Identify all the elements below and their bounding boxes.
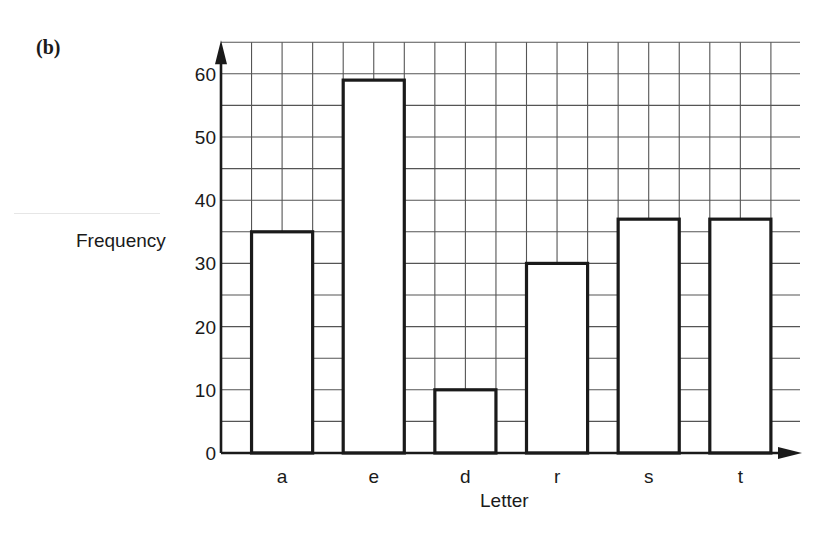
y-tick-label: 50 xyxy=(195,127,216,148)
y-axis-arrow-icon xyxy=(215,40,227,64)
bar-chart: 0102030405060 aedrst xyxy=(0,0,837,539)
bar-r xyxy=(527,263,588,453)
y-tick-labels: 0102030405060 xyxy=(195,64,216,464)
y-tick-label: 30 xyxy=(195,253,216,274)
x-tick-label: r xyxy=(554,466,561,487)
y-tick-label: 40 xyxy=(195,190,216,211)
y-tick-label: 10 xyxy=(195,380,216,401)
x-tick-label: s xyxy=(644,466,654,487)
y-tick-label: 0 xyxy=(205,443,216,464)
x-tick-label: e xyxy=(368,466,379,487)
bars xyxy=(252,80,771,453)
x-tick-label: d xyxy=(460,466,471,487)
bar-a xyxy=(252,232,313,453)
y-tick-label: 60 xyxy=(195,64,216,85)
x-tick-label: t xyxy=(738,466,744,487)
x-tick-labels: aedrst xyxy=(277,466,744,487)
bar-e xyxy=(343,80,404,453)
x-axis-arrow-icon xyxy=(778,447,802,459)
x-tick-label: a xyxy=(277,466,288,487)
bar-t xyxy=(710,219,771,453)
bar-d xyxy=(435,390,496,453)
bar-s xyxy=(618,219,679,453)
y-tick-label: 20 xyxy=(195,317,216,338)
